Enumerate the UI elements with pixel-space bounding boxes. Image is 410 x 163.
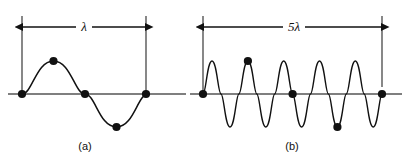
panel-a-dimension-label: λ [80,19,87,34]
figure-canvas: λ (a) 5λ [0,0,410,163]
panel-b-point-trough [333,123,341,131]
panel-b-point-center-node [289,90,297,98]
panel-b-point-left-node [199,90,207,98]
panel-b-point-right-node [378,90,386,98]
panel-a-caption: (a) [78,140,91,152]
panel-b: 5λ (b) [190,16,402,152]
panel-b-caption: (b) [285,140,298,152]
panel-a-point-trough [112,123,120,131]
panel-a-point-center-node [81,90,89,98]
panel-a-point-left-node [18,90,26,98]
wavelength-figure: λ (a) 5λ [0,0,410,163]
panel-b-point-crest [244,57,252,65]
panel-b-dimension-label: 5λ [288,19,301,34]
panel-a-point-right-node [142,90,150,98]
panel-a: λ (a) [8,16,186,152]
panel-a-point-crest [49,57,57,65]
